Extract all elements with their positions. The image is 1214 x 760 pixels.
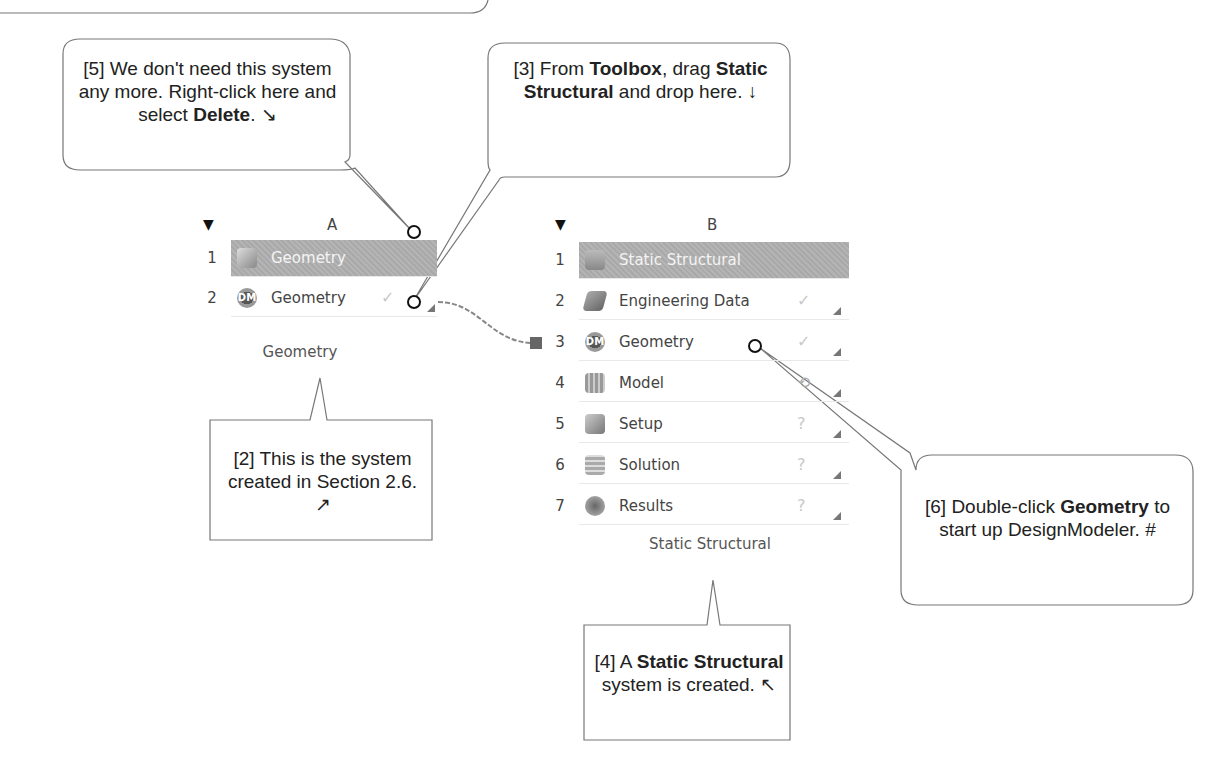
row-number: 5 xyxy=(545,406,575,442)
row-number: 4 xyxy=(545,365,575,401)
system-a-caption[interactable]: Geometry xyxy=(240,343,360,361)
system-a-row-1[interactable]: 1 Geometry xyxy=(197,240,437,276)
row-label: Results xyxy=(619,488,673,524)
row-cell: DM Geometry ✓ xyxy=(579,324,849,361)
row-cell: Engineering Data ✓ xyxy=(579,283,849,320)
row-cell: Setup ? xyxy=(579,406,849,443)
collapse-toggle[interactable]: ▼ xyxy=(555,216,566,232)
setup-icon xyxy=(585,414,605,434)
corner-menu-icon[interactable] xyxy=(833,430,841,438)
question-mark-icon: ? xyxy=(797,447,806,483)
callout-4: [4] A Static Structural system is create… xyxy=(594,650,784,696)
row-cell: Model ⟲ xyxy=(579,365,849,402)
geometry-cube-icon xyxy=(237,248,257,268)
geometry-a2-target-circle[interactable] xyxy=(407,295,421,309)
row-number: 2 xyxy=(545,283,575,319)
row-number: 6 xyxy=(545,447,575,483)
system-b-caption[interactable]: Static Structural xyxy=(610,535,810,553)
geometry-a1-target-circle[interactable] xyxy=(407,225,421,239)
row-label: Static Structural xyxy=(619,242,741,278)
row-label: Geometry xyxy=(619,324,694,360)
column-header-a: A xyxy=(327,216,337,234)
row-cell: Geometry xyxy=(231,240,437,277)
row-number: 7 xyxy=(545,488,575,524)
corner-menu-icon[interactable] xyxy=(833,512,841,520)
model-icon xyxy=(585,373,605,393)
system-b-row-4[interactable]: 4 Model ⟲ xyxy=(545,365,875,401)
row-number: 1 xyxy=(197,240,227,276)
row-cell: Solution ? xyxy=(579,447,849,484)
row-cell: Static Structural xyxy=(579,242,849,279)
engineering-data-icon xyxy=(582,291,607,311)
question-mark-icon: ? xyxy=(797,488,806,524)
corner-menu-icon[interactable] xyxy=(427,304,435,312)
row-label: Solution xyxy=(619,447,680,483)
row-label: Geometry xyxy=(271,240,346,276)
system-a[interactable]: ▼ A 1 Geometry 2 DM Geometry ✓ xyxy=(197,210,437,320)
refresh-required-icon: ⟲ xyxy=(797,365,810,401)
row-label: Setup xyxy=(619,406,663,442)
callout-3: [3] From Toolbox, drag Static Structural… xyxy=(498,57,783,103)
corner-menu-icon[interactable] xyxy=(833,389,841,397)
system-b[interactable]: ▼ B 1 Static Structural 2 Engineering Da… xyxy=(545,210,875,500)
row-label: Geometry xyxy=(271,280,346,316)
callout-2: [2] This is the system created in Sectio… xyxy=(220,447,425,516)
row-label: Engineering Data xyxy=(619,283,750,319)
static-structural-icon xyxy=(585,250,605,270)
row-number: 3 xyxy=(545,324,575,360)
check-icon: ✓ xyxy=(797,324,810,360)
system-b-row-7[interactable]: 7 Results ? xyxy=(545,488,875,524)
corner-menu-icon[interactable] xyxy=(833,348,841,356)
column-header-b: B xyxy=(707,216,717,234)
corner-menu-icon[interactable] xyxy=(833,307,841,315)
check-icon: ✓ xyxy=(797,283,810,319)
collapse-toggle[interactable]: ▼ xyxy=(203,216,214,232)
system-b-row-1[interactable]: 1 Static Structural xyxy=(545,242,875,278)
designmodeler-icon: DM xyxy=(237,288,257,308)
row-number: 1 xyxy=(545,242,575,278)
check-icon: ✓ xyxy=(381,280,394,316)
callout-5: [5] We don't need this system any more. … xyxy=(70,57,345,126)
row-cell: Results ? xyxy=(579,488,849,525)
results-icon xyxy=(585,496,605,516)
solution-icon xyxy=(585,455,605,475)
system-b-row-2[interactable]: 2 Engineering Data ✓ xyxy=(545,283,875,319)
question-mark-icon: ? xyxy=(797,406,806,442)
system-b-row-5[interactable]: 5 Setup ? xyxy=(545,406,875,442)
row-number: 2 xyxy=(197,280,227,316)
system-a-row-2[interactable]: 2 DM Geometry ✓ xyxy=(197,280,437,316)
row-cell: DM Geometry ✓ xyxy=(231,280,437,317)
callout-6: [6] Double-click Geometry to start up De… xyxy=(910,495,1185,541)
corner-menu-icon[interactable] xyxy=(833,471,841,479)
geometry-b3-target-circle[interactable] xyxy=(748,339,762,353)
system-b-row-6[interactable]: 6 Solution ? xyxy=(545,447,875,483)
system-b-row-3[interactable]: 3 DM Geometry ✓ xyxy=(545,324,875,360)
designmodeler-icon: DM xyxy=(585,332,605,352)
row-label: Model xyxy=(619,365,664,401)
